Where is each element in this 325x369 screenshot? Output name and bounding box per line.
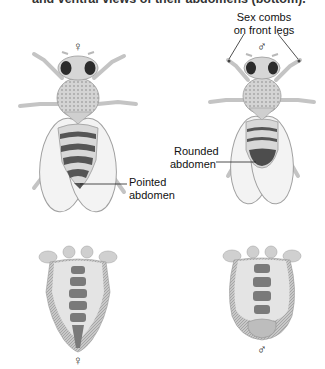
label-line: on front legs	[232, 24, 296, 37]
pointed-abdomen-label: Pointed abdomen	[129, 176, 175, 201]
label-line: abdomen	[129, 189, 175, 202]
female-fly-dorsal	[20, 52, 136, 214]
female-symbol-ventral: ♀	[73, 354, 83, 367]
female-symbol-dorsal: ♀	[73, 40, 83, 53]
label-line: Rounded	[170, 145, 219, 158]
rounded-abdomen-label: Rounded abdomen	[170, 145, 219, 170]
label-line: Sex combs	[232, 11, 296, 24]
male-fly-dorsal	[210, 54, 314, 206]
label-line: abdomen	[170, 158, 219, 171]
male-abdomen-ventral	[223, 246, 301, 340]
label-line: Pointed	[129, 176, 175, 189]
sex-combs-label: Sex combs on front legs	[232, 11, 296, 36]
sex-comb-pointer-right	[278, 34, 298, 59]
male-symbol-dorsal: ♂	[257, 40, 267, 53]
male-symbol-ventral: ♂	[257, 343, 267, 356]
sex-comb-pointer-left	[229, 34, 244, 59]
female-abdomen-ventral	[39, 246, 117, 352]
